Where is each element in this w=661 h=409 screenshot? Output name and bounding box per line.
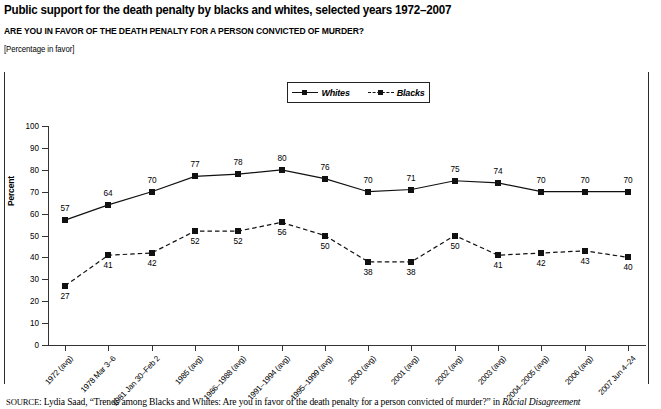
y-tick-70: 70: [42, 192, 48, 193]
x-tick-13: [628, 345, 629, 351]
data-point-blacks-6: [322, 233, 328, 239]
data-label-whites-8: 71: [407, 173, 416, 183]
legend-label-whites: Whites: [321, 88, 349, 98]
x-tick-label-11: 2004–2005 (avg): [505, 354, 551, 402]
data-point-blacks-1: [105, 252, 111, 258]
data-point-blacks-11: [538, 250, 544, 256]
plot-area: 0102030405060708090100 1972 (avg)1978 Ma…: [48, 126, 645, 345]
data-label-whites-9: 75: [450, 164, 459, 174]
y-tick-30: 30: [42, 279, 48, 280]
data-label-blacks-6: 50: [320, 241, 329, 251]
data-point-whites-12: [582, 189, 588, 195]
legend-entry-whites: Whites: [292, 88, 349, 98]
x-tick-label-6: 1995–1999 (avg): [289, 354, 335, 402]
legend-label-blacks: Blacks: [397, 88, 425, 98]
x-tick-1: [108, 345, 109, 351]
x-tick-label-10: 2003 (avg): [476, 354, 507, 387]
y-tick-label-20: 20: [30, 296, 39, 306]
data-point-blacks-9: [452, 233, 458, 239]
data-point-whites-0: [62, 217, 68, 223]
data-point-blacks-10: [495, 252, 501, 258]
data-label-whites-13: 70: [624, 175, 633, 185]
data-point-blacks-0: [62, 283, 68, 289]
x-tick-3: [195, 345, 196, 351]
x-tick-9: [455, 345, 456, 351]
data-point-whites-13: [625, 189, 631, 195]
chart-legend: Whites Blacks: [287, 82, 430, 103]
series-lines: [48, 126, 645, 345]
x-tick-label-12: 2006 (avg): [563, 354, 594, 387]
data-point-blacks-2: [149, 250, 155, 256]
data-label-whites-1: 64: [104, 188, 113, 198]
x-tick-label-3: 1985 (avg): [173, 354, 204, 387]
y-tick-label-30: 30: [30, 274, 39, 284]
y-tick-100: 100: [42, 126, 48, 127]
data-point-whites-11: [538, 189, 544, 195]
data-point-whites-8: [408, 187, 414, 193]
x-tick-label-13: 2007 Jun 4–24: [597, 354, 638, 397]
x-tick-4: [238, 345, 239, 351]
data-label-whites-4: 78: [234, 157, 243, 167]
x-tick-8: [411, 345, 412, 351]
data-label-blacks-7: 38: [364, 267, 373, 277]
x-tick-label-0: 1972 (avg): [43, 354, 74, 387]
data-point-whites-7: [365, 189, 371, 195]
chart-plot-wrapper: Percent 0102030405060708090100 1972 (avg…: [0, 0, 661, 409]
x-tick-6: [325, 345, 326, 351]
data-label-blacks-13: 40: [624, 262, 633, 272]
data-point-blacks-5: [279, 219, 285, 225]
y-tick-50: 50: [42, 236, 48, 237]
data-point-whites-9: [452, 178, 458, 184]
y-tick-20: 20: [42, 301, 48, 302]
legend-entry-blacks: Blacks: [368, 88, 425, 98]
x-tick-12: [585, 345, 586, 351]
source-note: SOURCE: Lydia Saad, “Trends among Blacks…: [6, 396, 661, 408]
data-label-whites-3: 77: [190, 159, 199, 169]
data-point-whites-1: [105, 202, 111, 208]
data-label-whites-10: 74: [494, 166, 503, 176]
data-label-blacks-4: 52: [234, 236, 243, 246]
y-tick-80: 80: [42, 170, 48, 171]
data-label-whites-5: 80: [277, 153, 286, 163]
y-tick-label-40: 40: [30, 252, 39, 262]
data-point-blacks-12: [582, 248, 588, 254]
y-tick-label-0: 0: [34, 340, 39, 350]
x-tick-label-9: 2002 (avg): [433, 354, 464, 387]
data-label-blacks-0: 27: [61, 291, 70, 301]
y-tick-label-100: 100: [25, 121, 39, 131]
legend-swatch-solid-icon: [292, 88, 318, 97]
y-tick-10: 10: [42, 323, 48, 324]
source-italic-tail: Racial Disagreement: [502, 396, 580, 407]
data-point-blacks-8: [408, 259, 414, 265]
data-point-whites-4: [235, 171, 241, 177]
data-point-whites-2: [149, 189, 155, 195]
x-tick-7: [368, 345, 369, 351]
y-tick-90: 90: [42, 148, 48, 149]
y-tick-label-10: 10: [30, 318, 39, 328]
data-point-blacks-13: [625, 254, 631, 260]
x-tick-label-7: 2000 (avg): [346, 354, 377, 387]
data-label-blacks-2: 42: [147, 258, 156, 268]
y-axis-title: Percent: [6, 176, 16, 206]
data-label-whites-0: 57: [61, 203, 70, 213]
x-tick-label-5: 1991–1994 (avg): [245, 354, 291, 402]
data-label-blacks-5: 56: [277, 227, 286, 237]
x-tick-2: [152, 345, 153, 351]
data-label-whites-11: 70: [537, 175, 546, 185]
data-label-whites-6: 76: [320, 162, 329, 172]
y-tick-label-70: 70: [30, 187, 39, 197]
y-tick-60: 60: [42, 214, 48, 215]
data-label-blacks-12: 43: [580, 256, 589, 266]
data-label-blacks-10: 41: [494, 260, 503, 270]
source-text: : Lydia Saad, “Trends among Blacks and W…: [39, 396, 502, 407]
x-tick-label-4: 1986–1988 (avg): [202, 354, 248, 402]
data-label-blacks-11: 42: [537, 258, 546, 268]
y-tick-label-80: 80: [30, 165, 39, 175]
data-label-whites-2: 70: [147, 175, 156, 185]
data-label-whites-7: 70: [364, 175, 373, 185]
data-label-blacks-9: 50: [450, 241, 459, 251]
data-point-whites-5: [279, 167, 285, 173]
x-tick-11: [541, 345, 542, 351]
y-tick-label-50: 50: [30, 231, 39, 241]
y-tick-0: 0: [42, 345, 48, 346]
